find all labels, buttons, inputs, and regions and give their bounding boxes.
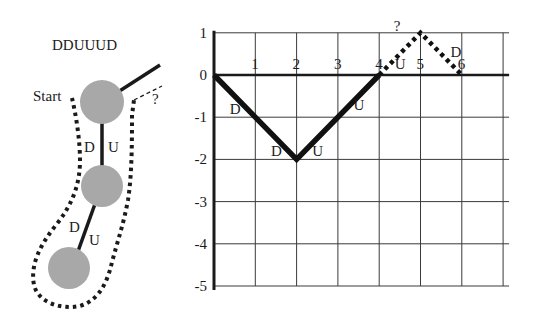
edge-1-label-up: U xyxy=(108,139,119,155)
tree-edge-unknown xyxy=(118,65,160,92)
x-tick-label: 3 xyxy=(334,56,342,72)
edge-2-label-down: D xyxy=(69,219,80,235)
y-tick-label: 1 xyxy=(200,25,208,41)
x-tick-labels: 123456 xyxy=(251,56,465,72)
y-tick-label: 0 xyxy=(200,67,208,83)
step-labels: DDUUUD xyxy=(230,44,462,159)
x-tick-label: 1 xyxy=(251,56,258,72)
start-label: Start xyxy=(33,88,62,104)
x-tick-label: 4 xyxy=(375,56,383,72)
tree-node-root xyxy=(80,80,124,124)
annotations: ? xyxy=(394,18,401,34)
x-tick-label: 2 xyxy=(293,56,301,72)
edge-1-label-down: D xyxy=(84,139,95,155)
step-label-d: D xyxy=(230,101,241,117)
walk-chart: 123456 10-1-2-3-4-5 DDUUUD ? xyxy=(195,18,510,294)
y-tick-labels: 10-1-2-3-4-5 xyxy=(195,25,208,294)
y-tick-label: -1 xyxy=(195,109,208,125)
x-tick-label: 5 xyxy=(417,56,425,72)
y-tick-label: -3 xyxy=(195,194,208,210)
step-label-u: U xyxy=(395,56,406,72)
step-label-u: U xyxy=(354,97,365,113)
tree-diagram: DDUUUD Start ? D U D U xyxy=(33,37,162,307)
question-annotation: ? xyxy=(394,18,401,34)
tree-node-3 xyxy=(48,247,90,289)
tree-node-2 xyxy=(81,165,123,207)
y-tick-label: -5 xyxy=(195,278,208,294)
question-label: ? xyxy=(152,91,159,107)
sequence-title: DDUUUD xyxy=(52,37,117,53)
step-label-d: D xyxy=(271,143,282,159)
step-label-d: D xyxy=(451,44,462,60)
edge-2-label-up: U xyxy=(89,232,100,248)
step-label-u: U xyxy=(312,143,323,159)
diagram-canvas: DDUUUD Start ? D U D U 123456 10-1-2-3-4… xyxy=(0,0,533,330)
y-tick-label: -2 xyxy=(195,151,208,167)
y-tick-label: -4 xyxy=(195,236,208,252)
